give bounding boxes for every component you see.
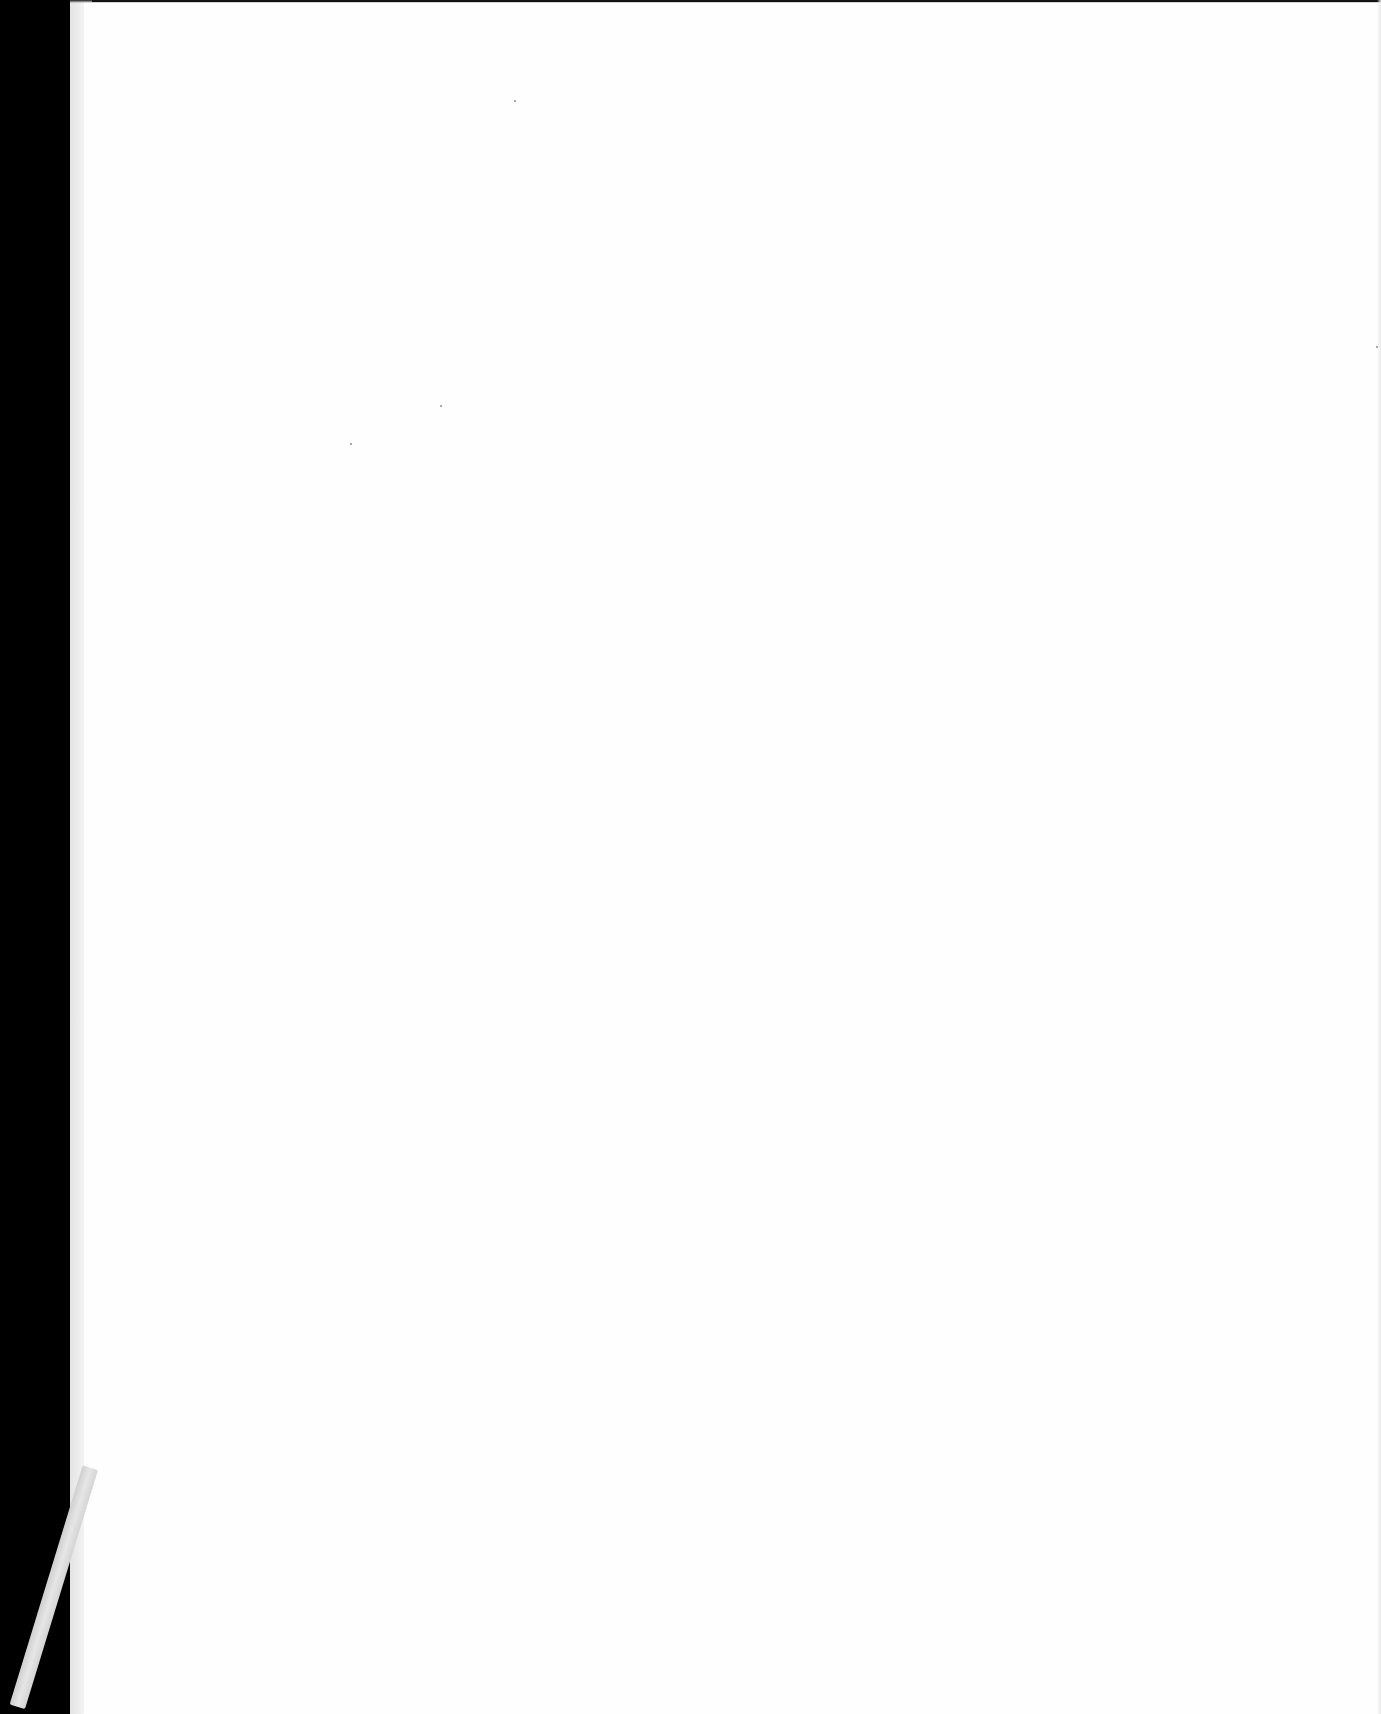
right-paper-edge (1377, 0, 1381, 1714)
top-scan-shadow (70, 0, 1381, 3)
blank-page (84, 2, 1381, 1714)
scan-speck (350, 443, 352, 445)
scan-speck (1376, 346, 1378, 348)
scan-speck (440, 405, 442, 407)
scan-speck (514, 100, 516, 102)
scanned-page-canvas (0, 0, 1381, 1714)
